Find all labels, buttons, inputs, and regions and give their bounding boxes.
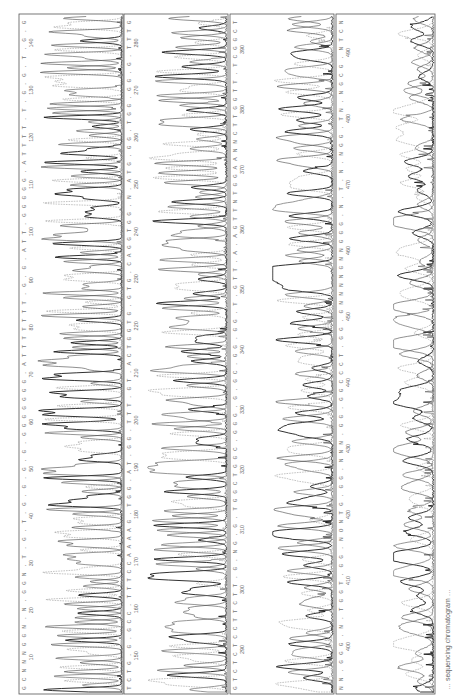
chromatogram-panel-3: GTCTCTCCTTCTT.G.NG.G.TGGCTGGC.GGG.G.GC.G…	[230, 14, 334, 694]
figure-caption: … sequencing chromatogram …	[444, 589, 452, 690]
base-position-label: 40	[28, 513, 34, 519]
base-position-label: 160	[133, 604, 139, 613]
base-position-label: 300	[239, 585, 245, 594]
trace-a	[45, 17, 122, 693]
base-position-label: 170	[133, 557, 139, 566]
base-position-label: 340	[239, 345, 245, 354]
chromatogram-panel-1: GCNNNGGN.N.GGN.T.G.T.G.G.G.G.GGGGGGG.ATT…	[19, 14, 123, 694]
base-position-label: 190	[133, 463, 139, 472]
base-position-label: 290	[239, 645, 245, 654]
base-position-label: 50	[28, 466, 34, 472]
trace-t	[275, 17, 333, 693]
base-position-label: 110	[28, 180, 34, 189]
base-call-sequence: NN.GGG.N.TGGT.GG.NONTG.GG.NNN.GG.GGCCCT.…	[338, 20, 345, 690]
base-position-label: 470	[345, 180, 351, 189]
base-position-label: 320	[239, 465, 245, 474]
base-position-label: 430	[345, 444, 351, 453]
base-position-label: 260	[133, 133, 139, 142]
base-position-label: 130	[28, 86, 34, 95]
base-position-label: 30	[28, 560, 34, 566]
base-position-label: 10	[28, 654, 34, 660]
base-position-label: 90	[28, 277, 34, 283]
base-position-label: 390	[239, 45, 245, 54]
trace-t	[43, 17, 122, 693]
base-position-label: 330	[239, 405, 245, 414]
base-position-label: 70	[28, 371, 34, 377]
base-position-label: 240	[133, 227, 139, 236]
base-call-sequence: GCNNNGGN.N.GGN.T.G.T.G.G.G.G.GGGGGGG.ATT…	[21, 20, 28, 690]
base-position-label: 280	[133, 38, 139, 47]
base-position-label: 220	[133, 321, 139, 330]
base-position-label: 150	[133, 651, 139, 660]
base-position-label: 180	[133, 510, 139, 519]
base-call-sequence: TCTG.G.GCC.TTTCCAAAAG.TGG.AT.GG.TTT.GT.A…	[126, 20, 133, 690]
chromatogram-panel-2: TCTG.G.GCC.TTTCCAAAAG.TGG.AT.GG.TTT.GT.A…	[124, 14, 228, 694]
base-position-label: 210	[133, 368, 139, 377]
base-position-label: 420	[345, 510, 351, 519]
base-position-label: 380	[239, 105, 245, 114]
base-position-label: 230	[133, 274, 139, 283]
chromatogram-figure: GCNNNGGN.N.GGN.T.G.T.G.G.G.G.GGGGGGG.ATT…	[0, 0, 455, 698]
base-position-label: 140	[28, 38, 34, 47]
base-position-label: 460	[345, 246, 351, 255]
base-position-label: 250	[133, 180, 139, 189]
base-position-label: 20	[28, 607, 34, 613]
base-position-label: 370	[239, 165, 245, 174]
base-call-sequence: GTCTCTCCTTCTT.G.NG.G.TGGCTGGC.GGG.G.GC.G…	[232, 20, 239, 690]
base-position-label: 440	[345, 378, 351, 387]
base-position-label: 450	[345, 312, 351, 321]
base-position-label: 270	[133, 86, 139, 95]
base-position-label: 310	[239, 525, 245, 534]
base-position-label: 490	[345, 48, 351, 57]
base-position-label: 360	[239, 225, 245, 234]
base-position-label: 100	[28, 227, 34, 236]
trace-g	[39, 17, 122, 693]
chromatogram-panels: GCNNNGGN.N.GGN.T.G.T.G.G.G.G.GGGGGGG.ATT…	[19, 14, 435, 694]
base-position-label: 410	[345, 576, 351, 585]
base-position-label: 120	[28, 133, 34, 142]
base-position-label: 60	[28, 419, 34, 425]
base-position-label: 350	[239, 285, 245, 294]
chromatogram-panel-4: NN.GGG.N.TGGT.GG.NONTG.GG.NNN.GG.GGCCCT.…	[336, 14, 435, 694]
base-position-label: 200	[133, 416, 139, 425]
base-position-label: 480	[345, 114, 351, 123]
base-position-label: 400	[345, 642, 351, 651]
base-position-label: 80	[28, 324, 34, 330]
